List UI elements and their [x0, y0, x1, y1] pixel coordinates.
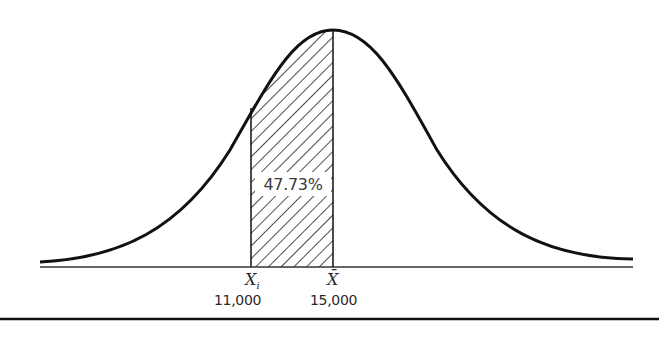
mean-value-label: 15,000	[310, 292, 357, 308]
shaded-percent-label: 47.73%	[255, 172, 331, 196]
xi-symbol: X	[245, 270, 256, 289]
xi-value-label: 11,000	[214, 292, 261, 308]
xi-symbol-label: Xi	[245, 270, 260, 291]
shaded-region	[40, 30, 633, 267]
bell-curve	[40, 30, 633, 262]
xi-subscript: i	[256, 280, 259, 291]
mean-symbol-label: X̄	[327, 270, 338, 289]
